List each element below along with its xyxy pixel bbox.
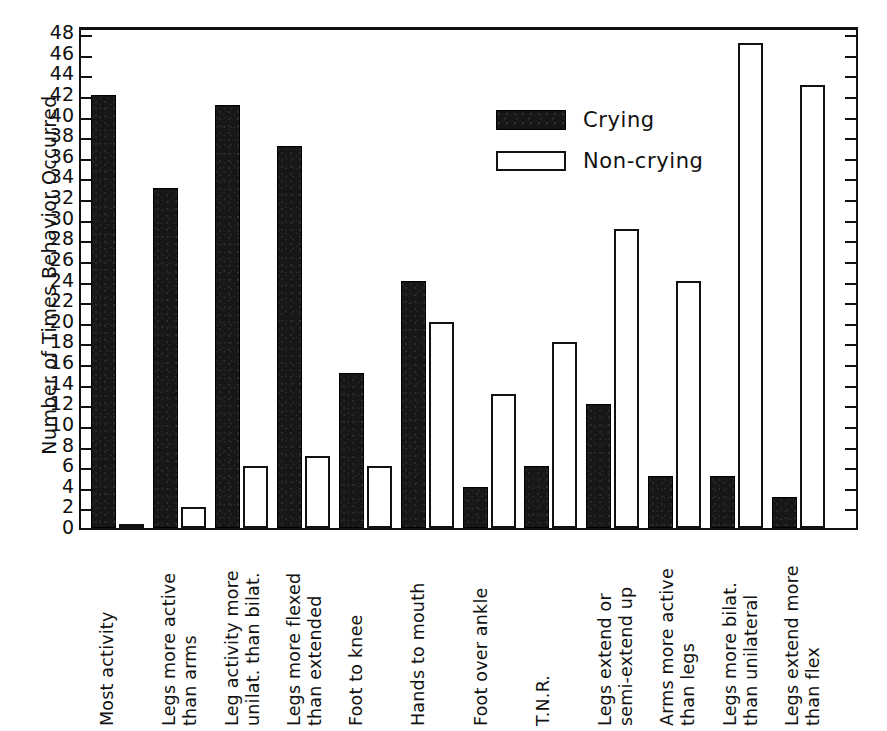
y-tick-label: 8 xyxy=(62,435,74,454)
x-category: Legs more activethan arms xyxy=(151,530,213,731)
x-category: Legs more flexedthan extended xyxy=(276,530,338,731)
x-category-label-line2: than flex xyxy=(803,565,824,726)
x-category-label: Hands to mouth xyxy=(408,583,429,727)
legend-label-crying: Crying xyxy=(583,108,655,132)
bar-non-crying[interactable] xyxy=(181,507,206,528)
x-category-label-line2: than unilateral xyxy=(741,582,762,726)
bar-crying[interactable] xyxy=(91,95,116,528)
x-category-label-line1: Hands to mouth xyxy=(408,583,428,727)
bar-group xyxy=(215,30,277,528)
y-tick-label: 34 xyxy=(50,167,74,186)
y-tick-label: 48 xyxy=(50,23,74,42)
bar-crying[interactable] xyxy=(463,487,488,528)
y-tick-label: 30 xyxy=(50,208,74,227)
y-tick-label: 12 xyxy=(50,394,74,413)
x-category-label-line1: Leg activity more xyxy=(222,570,242,726)
x-category: Legs extend morethan flex xyxy=(774,530,836,731)
x-category-label-line2: than extended xyxy=(305,573,326,726)
x-category: Foot over ankle xyxy=(463,530,525,731)
x-category: Leg activity moreunilat. than bilat. xyxy=(214,530,276,731)
bar-crying[interactable] xyxy=(215,105,240,528)
bar-series-container xyxy=(81,30,856,528)
y-tick-label: 26 xyxy=(50,249,74,268)
bar-group xyxy=(91,30,153,528)
bar-group xyxy=(339,30,401,528)
bar-non-crying[interactable] xyxy=(429,322,454,528)
plot-area: Crying Non-crying xyxy=(79,27,858,530)
x-category-label-line1: Legs more active xyxy=(159,573,179,726)
x-category-label-line1: Legs more bilat. xyxy=(720,582,740,726)
y-tick-label: 20 xyxy=(50,311,74,330)
x-category: Foot to knee xyxy=(338,530,400,731)
x-category: Legs more bilat.than unilateral xyxy=(712,530,774,731)
x-category-label-line1: Arms more active xyxy=(657,568,677,726)
bar-group xyxy=(277,30,339,528)
bar-non-crying[interactable] xyxy=(676,281,701,529)
bar-crying[interactable] xyxy=(586,404,611,528)
bar-non-crying[interactable] xyxy=(305,456,330,528)
bar-non-crying[interactable] xyxy=(800,85,825,528)
y-tick-label: 0 xyxy=(62,518,74,537)
x-category-label: T.N.R. xyxy=(533,675,554,726)
x-axis-category-labels: Most activityLegs more activethan armsLe… xyxy=(79,530,858,731)
x-category-label: Legs more bilat.than unilateral xyxy=(720,582,762,726)
bar-group xyxy=(153,30,215,528)
y-tick-label: 14 xyxy=(50,373,74,392)
x-category-label-line1: Foot to knee xyxy=(346,614,366,726)
x-category-label-line2: than legs xyxy=(678,568,699,726)
y-tick-label: 28 xyxy=(50,229,74,248)
bar-non-crying[interactable] xyxy=(552,342,577,528)
bar-chart-figure: Number of Times Behavior Occurred 024681… xyxy=(0,0,887,731)
x-category-label: Most activity xyxy=(97,612,118,726)
bar-group xyxy=(772,30,834,528)
x-category: Most activity xyxy=(89,530,151,731)
bar-crying[interactable] xyxy=(710,476,735,528)
x-category-label-line1: T.N.R. xyxy=(533,675,553,726)
bar-non-crying[interactable] xyxy=(491,394,516,528)
bar-crying[interactable] xyxy=(277,146,302,528)
bar-crying[interactable] xyxy=(772,497,797,528)
y-tick-label: 4 xyxy=(62,476,74,495)
legend-item-non-crying: Non-crying xyxy=(496,149,756,173)
bar-non-crying[interactable] xyxy=(243,466,268,528)
y-tick-label: 40 xyxy=(50,105,74,124)
y-tick-label: 42 xyxy=(50,84,74,103)
y-tick-label: 18 xyxy=(50,332,74,351)
y-tick-label: 10 xyxy=(50,414,74,433)
legend-swatch-crying xyxy=(496,110,566,130)
legend-swatch-non-crying xyxy=(496,151,566,171)
bar-non-crying[interactable] xyxy=(614,229,639,528)
bar-group xyxy=(401,30,463,528)
bar-group xyxy=(586,30,648,528)
legend-label-non-crying: Non-crying xyxy=(583,149,704,173)
bar-group xyxy=(648,30,710,528)
x-category-label: Legs extend morethan flex xyxy=(782,565,824,726)
bar-crying[interactable] xyxy=(648,476,673,528)
y-tick-label: 36 xyxy=(50,146,74,165)
y-tick-label: 2 xyxy=(62,497,74,516)
x-category: Hands to mouth xyxy=(400,530,462,731)
x-category-label-line2: semi-extend up xyxy=(616,587,637,726)
x-category-label-line2: than arms xyxy=(180,573,201,726)
bar-crying[interactable] xyxy=(153,188,178,528)
y-tick-label: 6 xyxy=(62,456,74,475)
bar-crying[interactable] xyxy=(339,373,364,528)
legend: Crying Non-crying xyxy=(496,108,756,190)
x-category-label-line2: unilat. than bilat. xyxy=(243,570,264,726)
x-category-label-line1: Legs extend or xyxy=(595,593,615,726)
bar-crying[interactable] xyxy=(524,466,549,528)
bar-crying[interactable] xyxy=(401,281,426,529)
y-tick-label: 38 xyxy=(50,126,74,145)
y-tick-label: 24 xyxy=(50,270,74,289)
y-axis-tick-labels: 0246810121416182022242628303234363840424… xyxy=(28,0,74,560)
y-tick-label: 22 xyxy=(50,291,74,310)
bar-non-crying[interactable] xyxy=(367,466,392,528)
x-category-label-line1: Legs extend more xyxy=(782,565,802,726)
bar-group xyxy=(524,30,586,528)
y-tick-label: 44 xyxy=(50,64,74,83)
legend-item-crying: Crying xyxy=(496,108,756,132)
bar-non-crying[interactable] xyxy=(119,524,144,528)
x-category-label-line1: Foot over ankle xyxy=(471,588,491,726)
y-tick-label: 32 xyxy=(50,188,74,207)
x-category-label: Legs more flexedthan extended xyxy=(284,573,326,726)
